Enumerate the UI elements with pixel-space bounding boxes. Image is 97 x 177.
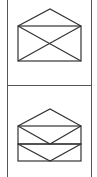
- envelope-stacked-icon: [8, 86, 93, 177]
- open-mail-button[interactable]: [8, 0, 91, 85]
- stacked-mail-button[interactable]: [8, 86, 91, 177]
- mail-stack-panel: [7, 85, 92, 177]
- mail-open-panel: [7, 0, 92, 85]
- envelope-open-icon: [8, 0, 93, 85]
